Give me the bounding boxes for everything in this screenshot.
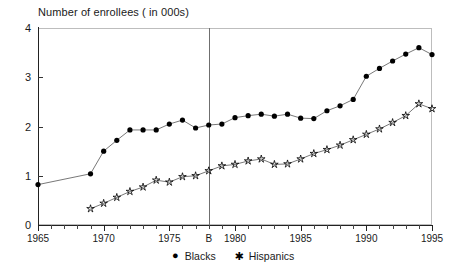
data-point (311, 116, 316, 121)
data-point (140, 127, 145, 132)
data-point (377, 66, 382, 71)
data-point (114, 138, 119, 143)
data-point (246, 113, 251, 118)
data-point (337, 103, 342, 108)
data-point (180, 118, 185, 123)
chart-legend: ● Blacks ✱ Hispanics (0, 250, 464, 262)
series-layer (0, 0, 464, 271)
data-point (416, 45, 421, 50)
data-point (206, 122, 211, 127)
data-point (285, 112, 290, 117)
data-point (390, 58, 395, 63)
data-point (259, 112, 264, 117)
data-point (232, 115, 237, 120)
data-point (193, 125, 198, 130)
data-point (167, 121, 172, 126)
data-point (364, 74, 369, 79)
legend-label-hispanics: Hispanics (249, 250, 295, 262)
legend-item-blacks: ● Blacks (170, 250, 216, 262)
data-point (351, 97, 356, 102)
data-point (298, 116, 303, 121)
legend-label-blacks: Blacks (185, 250, 216, 262)
circle-marker-icon: ● (170, 250, 181, 261)
data-point (403, 52, 408, 57)
chart-container: Number of enrollees ( in 000s) 01234 196… (0, 0, 464, 271)
data-point (272, 114, 277, 119)
data-point (429, 52, 434, 57)
data-point (88, 171, 93, 176)
data-point (324, 108, 329, 113)
data-point (219, 121, 224, 126)
data-point (154, 127, 159, 132)
star-marker-icon: ✱ (234, 251, 245, 262)
legend-item-hispanics: ✱ Hispanics (234, 250, 295, 262)
data-point (101, 149, 106, 154)
data-point (35, 182, 40, 187)
data-point (127, 127, 132, 132)
